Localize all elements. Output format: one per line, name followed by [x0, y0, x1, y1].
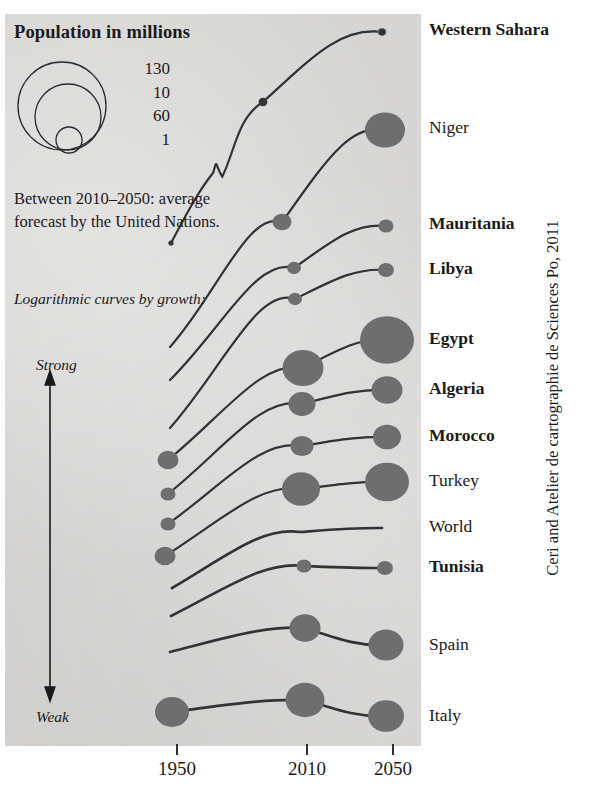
- series-curve: [172, 528, 382, 588]
- population-bubble: [368, 700, 404, 732]
- population-bubble: [365, 463, 409, 502]
- population-bubble: [297, 559, 312, 572]
- legend-size-label: 10: [112, 81, 170, 105]
- population-bubble: [155, 697, 189, 727]
- series-curve-tail: [282, 129, 385, 222]
- legend-size-labels: 130 10 60 1: [112, 57, 170, 151]
- curve-endpoint-dot: [168, 240, 173, 245]
- forecast-note: Between 2010–2050: average forecast by t…: [14, 187, 234, 233]
- series-curve-tail: [294, 226, 386, 268]
- population-bubble: [360, 316, 414, 364]
- plot-svg: [0, 0, 601, 800]
- bubble-layer: [155, 28, 415, 732]
- series-curve: [170, 628, 386, 652]
- population-bubble: [288, 293, 302, 305]
- series-curve: [168, 390, 387, 494]
- population-bubble: [377, 561, 393, 575]
- curve-endpoint-dot: [259, 98, 267, 106]
- population-bubble: [282, 472, 320, 505]
- population-bubble: [378, 263, 394, 277]
- country-label: Turkey: [429, 472, 479, 490]
- country-label: Libya: [429, 260, 473, 278]
- population-bubble: [273, 214, 292, 231]
- population-bubble: [373, 425, 401, 450]
- population-bubble: [289, 392, 316, 416]
- curve-type-label: Logarithmic curves by growth:: [14, 288, 214, 309]
- country-label: Tunisia: [429, 558, 484, 576]
- series-curve: [171, 565, 385, 616]
- growth-axis-arrow: [45, 371, 55, 701]
- chart-figure: Population in millions 130 10 60 1 Betwe…: [0, 0, 601, 800]
- series-curve: [165, 482, 387, 556]
- population-bubble: [365, 112, 405, 147]
- credit-line: Ceri and Atelier de cartographie de Scie…: [543, 220, 563, 575]
- population-bubble: [158, 451, 179, 469]
- population-bubble: [372, 376, 403, 403]
- series-curve: [170, 129, 385, 347]
- legend-title: Population in millions: [14, 22, 190, 43]
- legend-size-circles: [18, 62, 106, 153]
- x-axis-tick-label: 1950: [158, 758, 196, 780]
- country-label: Algeria: [429, 380, 484, 398]
- country-label: Italy: [429, 707, 461, 725]
- population-bubble: [290, 614, 321, 641]
- series-curve: [168, 437, 387, 524]
- population-bubble: [379, 219, 394, 232]
- series-curve-tail: [263, 31, 382, 102]
- legend-size-label: 60: [112, 104, 170, 128]
- legend-circle-60: [35, 84, 101, 150]
- population-bubble: [286, 683, 325, 717]
- legend-size-label: 1: [112, 128, 170, 152]
- growth-strong-label: Strong: [36, 356, 77, 374]
- country-label: Morocco: [429, 427, 495, 445]
- population-bubble: [161, 517, 176, 530]
- population-bubble: [283, 350, 324, 386]
- x-axis-ticks: [177, 744, 393, 755]
- country-label: Egypt: [429, 330, 474, 348]
- series-curve-tail: [295, 270, 386, 299]
- country-label: Western Sahara: [429, 21, 549, 39]
- country-label: Niger: [429, 119, 469, 137]
- country-label: Mauritania: [429, 215, 515, 233]
- population-bubble: [287, 262, 301, 274]
- series-curve: [168, 340, 387, 460]
- legend-circle-130: [18, 62, 106, 150]
- country-label: Spain: [429, 636, 469, 654]
- curve-layer: [165, 31, 387, 716]
- population-bubble: [161, 487, 176, 500]
- country-label: World: [429, 518, 472, 536]
- population-bubble: [369, 630, 404, 661]
- legend-size-label: 130: [112, 57, 170, 81]
- curve-endpoint-dot: [379, 29, 385, 35]
- population-bubble: [155, 547, 176, 565]
- x-axis-tick-label: 2010: [288, 758, 326, 780]
- x-axis-tick-label: 2050: [374, 758, 412, 780]
- growth-weak-label: Weak: [36, 708, 69, 726]
- population-bubble: [291, 436, 314, 456]
